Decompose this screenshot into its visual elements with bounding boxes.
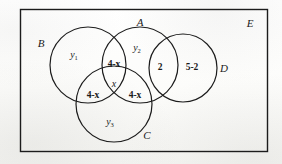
venn-diagram-screenshot: A B C D E y1 y2 y3 4-x x 4-x 4-x 2 5-2 — [0, 0, 282, 164]
region-label-a-only: y2 — [133, 43, 141, 54]
region-label-b-only: y1 — [70, 50, 78, 61]
set-label-a: A — [137, 17, 144, 28]
region-label-c-only: y3 — [106, 117, 114, 128]
region-label-a-inter-d: 2 — [158, 63, 163, 73]
set-label-e: E — [247, 18, 254, 29]
region-label-a-inter-b: 4-x — [108, 60, 120, 70]
region-label-b-inter-c: 4-x — [87, 91, 99, 101]
region-label-triple-intersection: x — [112, 79, 116, 89]
region-sub-a-only: 2 — [138, 47, 141, 54]
region-label-a-inter-c: 4-x — [129, 91, 141, 101]
region-sub-c-only: 3 — [111, 121, 114, 128]
set-label-c: C — [143, 130, 150, 141]
set-label-b: B — [38, 38, 45, 49]
region-sub-b-only: 1 — [75, 54, 78, 61]
set-label-d: D — [220, 63, 228, 74]
region-label-d-only: 5-2 — [186, 63, 198, 73]
